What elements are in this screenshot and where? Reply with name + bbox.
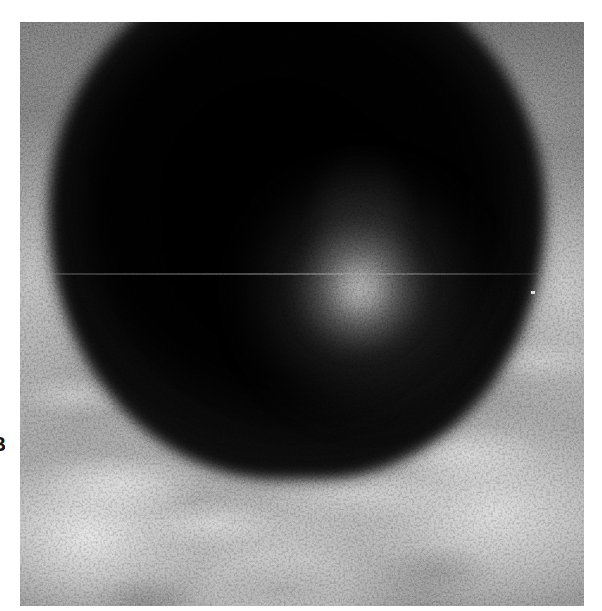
- bright-focal-spot: [296, 228, 424, 350]
- figure-root: B: [0, 0, 602, 611]
- micrograph-image: [20, 22, 584, 606]
- hot-pixel-artifact: [531, 291, 535, 294]
- panel-label: B: [0, 433, 5, 455]
- scanline-artifact: [20, 273, 584, 275]
